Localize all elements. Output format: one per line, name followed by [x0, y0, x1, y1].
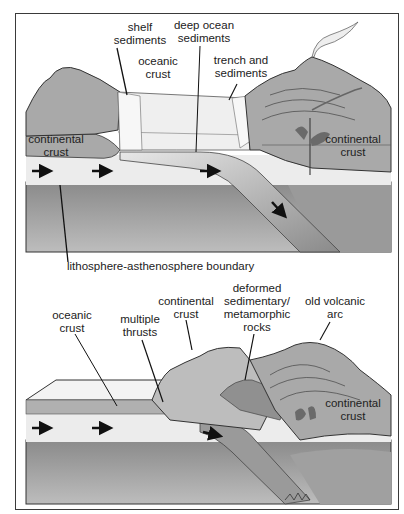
svg-text:deformedsedimentary/metamorphi: deformedsedimentary/metamorphicrocks [224, 282, 291, 333]
svg-text:multiplethrusts: multiplethrusts [120, 313, 160, 338]
svg-text:oceaniccrust: oceaniccrust [138, 55, 178, 80]
svg-text:oceaniccrust: oceaniccrust [52, 309, 92, 334]
bottom-panel: oceaniccrust multiplethrusts continental… [26, 282, 391, 504]
svg-text:trench andsediments: trench andsediments [214, 54, 268, 79]
svg-text:continentalcrust: continentalcrust [158, 295, 214, 320]
svg-text:old volcanicarc: old volcanicarc [305, 295, 365, 320]
top-panel: shelfsediments deep oceansediments ocean… [26, 19, 391, 272]
svg-text:shelfsediments: shelfsediments [114, 21, 167, 46]
svg-text:deep oceansediments: deep oceansediments [174, 19, 234, 44]
svg-text:lithosphere-asthenosphere boun: lithosphere-asthenosphere boundary [67, 260, 255, 272]
subduction-diagram: shelfsediments deep oceansediments ocean… [0, 0, 404, 514]
